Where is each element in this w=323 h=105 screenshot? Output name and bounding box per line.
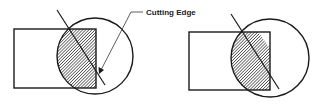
left-figure xyxy=(14,10,133,94)
right-hatched-region xyxy=(189,32,270,90)
left-hatched-region xyxy=(14,29,96,88)
cutting-edge-annotation: Cutting Edge xyxy=(99,8,197,74)
cutting-edge-label: Cutting Edge xyxy=(146,8,196,17)
cutting-edge-diagram: Cutting Edge xyxy=(0,0,323,105)
arrowhead-icon xyxy=(99,67,105,74)
right-figure xyxy=(189,14,309,97)
